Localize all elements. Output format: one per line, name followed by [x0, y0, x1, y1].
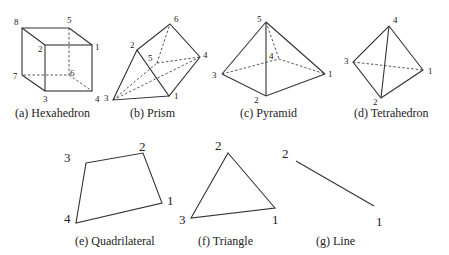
pyramid-caption: (c) Pyramid: [240, 106, 297, 120]
hexahedron-node-2: 2: [38, 44, 43, 54]
hexahedron-node-5: 5: [67, 15, 72, 25]
hexahedron-node-6: 6: [70, 68, 75, 78]
hexahedron-node-7: 7: [13, 71, 18, 81]
line-node-2: 2: [282, 146, 289, 161]
pyramid-edge: [222, 22, 266, 74]
prism-node-1: 1: [174, 91, 179, 101]
hexahedron-node-8: 8: [14, 17, 19, 27]
quadrilateral-caption: (e) Quadrilateral: [75, 234, 155, 248]
quadrilateral-node-1: 1: [167, 193, 174, 208]
line-caption: (g) Line: [316, 234, 355, 248]
triangle-node-2: 2: [215, 138, 222, 153]
tetrahedron-node-3: 3: [344, 56, 349, 66]
hexahedron-node-4: 4: [95, 94, 100, 104]
hexahedron-node-3: 3: [43, 94, 48, 104]
prism-hidden-edge: [157, 57, 200, 63]
line-node-1: 1: [376, 214, 383, 229]
pyramid-base-hidden: [222, 59, 325, 74]
prism-top-face: [137, 24, 200, 96]
hexahedron-caption: (a) Hexahedron: [15, 106, 90, 120]
hexahedron-edge: [22, 28, 45, 45]
pyramid-node-3: 3: [212, 70, 217, 80]
triangle-node-3: 3: [179, 212, 186, 227]
element-types-diagram: 1 2 3 4 5 6 7 8 (a) Hexahedron 1 2 3 4 5…: [0, 0, 449, 255]
triangle-outline: [191, 153, 275, 218]
pyramid-node-2: 2: [254, 95, 259, 105]
triangle-figure: 1 2 3 (f) Triangle: [179, 138, 279, 248]
prism-caption: (b) Prism: [130, 106, 176, 120]
prism-node-4: 4: [203, 50, 208, 60]
line-figure: 1 2 (g) Line: [282, 146, 383, 248]
quadrilateral-node-4: 4: [64, 211, 71, 226]
prism-node-6: 6: [174, 14, 179, 24]
tetrahedron-edge: [381, 26, 389, 98]
prism-figure: 1 2 3 4 5 6 (b) Prism: [104, 14, 208, 120]
pyramid-figure: 1 2 3 4 5 (c) Pyramid: [212, 14, 333, 120]
hexahedron-edge: [69, 28, 92, 45]
pyramid-node-1: 1: [328, 69, 333, 79]
tetrahedron-caption: (d) Tetrahedron: [354, 106, 429, 120]
triangle-node-1: 1: [272, 212, 279, 227]
line-segment: [296, 161, 374, 206]
hexahedron-node-1: 1: [95, 42, 100, 52]
quadrilateral-node-3: 3: [64, 150, 71, 165]
pyramid-node-4: 4: [269, 51, 274, 61]
quadrilateral-figure: 1 2 3 4 (e) Quadrilateral: [64, 139, 174, 248]
quadrilateral-node-2: 2: [139, 139, 146, 154]
tetrahedron-node-4: 4: [393, 15, 398, 25]
pyramid-base-front: [222, 74, 325, 96]
hexahedron-edge: [22, 75, 45, 91]
hexahedron-front-face: [45, 45, 92, 91]
prism-hidden-edge: [157, 24, 170, 63]
triangle-caption: (f) Triangle: [198, 234, 253, 248]
quadrilateral-outline: [76, 153, 162, 223]
prism-node-2: 2: [130, 40, 135, 50]
prism-node-3: 3: [104, 93, 109, 103]
hexahedron-figure: 1 2 3 4 5 6 7 8 (a) Hexahedron: [13, 15, 100, 120]
tetrahedron-figure: 1 2 3 4 (d) Tetrahedron: [344, 15, 433, 120]
pyramid-node-5: 5: [257, 14, 262, 24]
tetrahedron-node-1: 1: [428, 66, 433, 76]
prism-node-5: 5: [148, 53, 153, 63]
tetrahedron-hidden-edge: [353, 62, 423, 70]
